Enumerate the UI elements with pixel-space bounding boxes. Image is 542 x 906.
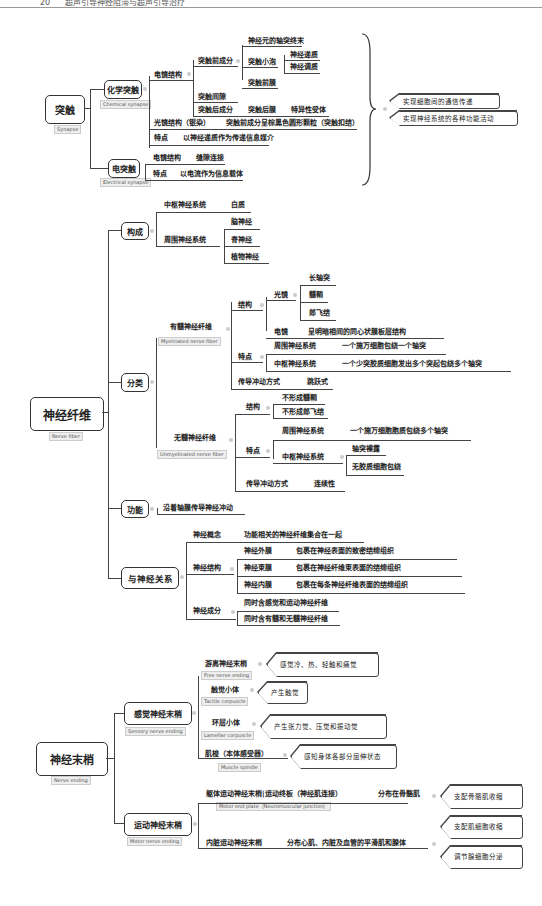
synapse-root-en: Synapse [54, 125, 81, 134]
tactile-corpuscle-en: Tactile corpuscle [201, 697, 248, 706]
nerve-fiber-root-label: 神经纤维 [43, 406, 91, 423]
connector [114, 823, 124, 824]
electrical-feature-label: 特点 [153, 169, 167, 179]
synapse-root-node[interactable]: 突触 [45, 95, 85, 124]
visceral-distribution: 分布心肌、内脏及血管的平滑肌和腺体 [287, 838, 406, 848]
vesicle-label: 突触小泡 [248, 57, 276, 67]
unmyelinated-conduction-label: 传导冲动方式 [246, 479, 288, 489]
tactile-corpuscle-desc: 产生触觉 [258, 682, 308, 704]
presynaptic-label: 突触前成分 [198, 56, 233, 66]
em-label: 电镜 [274, 327, 288, 337]
cranial-nerve-label: 脑神经 [231, 217, 252, 227]
connector [157, 514, 245, 515]
connector [242, 88, 278, 89]
collapse-dot [150, 380, 154, 384]
unmyelinated-pns-desc: 一个施万细胞胞质包绕多个轴突 [350, 426, 448, 436]
connector [300, 285, 336, 286]
connector [186, 542, 364, 543]
unmyelinated-en: Unmyelinated nerve fiber [157, 450, 227, 459]
collapse-dot [192, 711, 196, 715]
connector [235, 457, 270, 458]
collapse-dot [266, 449, 270, 453]
connector [237, 625, 340, 626]
connector [114, 713, 115, 823]
classification-label: 分类 [127, 377, 143, 388]
myelinated-label: 有髓神经纤维 [170, 322, 212, 332]
collapse-dot [236, 59, 240, 63]
myelinated-pns-desc: 一个施万细胞包绕一个轴突 [342, 341, 426, 351]
collapse-dot [432, 842, 436, 846]
connector [235, 415, 236, 492]
lm-structure-label: 光镜结构（银染） [154, 118, 210, 128]
myelinated-conduction-label: 传导冲动方式 [238, 377, 280, 387]
connector [224, 263, 269, 264]
perineurium-label: 神经束膜 [244, 563, 272, 573]
em-desc: 呈明暗相间的同心状膜板层结构 [308, 327, 406, 337]
nerve-fiber-root-node[interactable]: 神经纤维 [30, 397, 104, 431]
connector [186, 574, 234, 575]
function-desc: 沿着轴膜传导神经冲动 [163, 503, 233, 513]
nerve-ending-root-node[interactable]: 神经末梢 [36, 742, 108, 776]
lamellar-corpuscle-label: 环层小体 [212, 718, 240, 728]
postsynaptic-label: 突触后成分 [198, 105, 233, 115]
unmyelinated-conduction-desc: 连续性 [314, 479, 335, 489]
composition-node[interactable]: 构成 [121, 222, 149, 240]
connector [346, 455, 386, 456]
pns-label: 周围神经系统 [164, 235, 206, 245]
collapse-dot [260, 303, 264, 307]
connector [266, 297, 267, 331]
electrical-em-desc: 缝隙连接 [196, 153, 224, 163]
connector [145, 164, 225, 165]
collapse-dot [383, 107, 387, 111]
collapse-dot [230, 567, 234, 571]
visceral-function-1: 支配肌细胞收缩 [441, 816, 523, 839]
motor-ending-en: Motor nerve ending [127, 837, 182, 846]
nerve-relation-node[interactable]: 与神经关系 [121, 567, 179, 589]
neuromodulator-label: 神经调质 [290, 62, 318, 72]
connector [108, 230, 109, 578]
connector [156, 212, 157, 246]
electrical-synapse-node[interactable]: 电突触 [108, 159, 140, 178]
connector [300, 285, 301, 321]
curly-brace-icon [360, 32, 380, 187]
visceral-motor-label: 内脏运动神经末梢 [206, 838, 262, 848]
connector [149, 145, 269, 146]
classification-node[interactable]: 分类 [121, 373, 149, 392]
lm-desc-label: 突触前成分呈棕黑色圆形颗粒（突触扣结） [226, 118, 359, 128]
connector [237, 611, 238, 625]
connector [346, 455, 347, 476]
connector [156, 338, 157, 448]
electrical-synapse-en: Electrical synapse [100, 178, 151, 187]
connector [231, 362, 263, 363]
motor-ending-node[interactable]: 运动神经末梢 [124, 813, 192, 836]
epineurium-desc: 包裹在神经表面的致密结缔组织 [296, 546, 394, 556]
ranvier-node-label: 郎飞结 [309, 308, 330, 318]
collapse-dot [229, 438, 233, 442]
muscle-spindle-desc: 感知身体各部分屈伸状态 [291, 745, 397, 769]
nerve-relation-label: 与神经关系 [128, 572, 173, 584]
long-axon-label: 长轴突 [309, 273, 330, 283]
connector [273, 441, 274, 459]
function-callout-1: 实现细胞间的通信传递 [390, 94, 500, 109]
collapse-dot [258, 662, 262, 666]
connector [90, 168, 108, 169]
function-node[interactable]: 功能 [121, 500, 149, 518]
connector [284, 73, 320, 74]
connector [156, 212, 251, 213]
unmyelinated-feature-label: 特点 [246, 446, 260, 456]
neurotransmitter-label: 神经递质 [290, 50, 318, 60]
feature-desc-label: 以神经递质作为传递信息媒介 [183, 133, 274, 143]
connector [156, 246, 220, 247]
chemical-synapse-node[interactable]: 化学突触 [104, 80, 142, 99]
nerve-structure-label: 神经结构 [193, 563, 221, 573]
free-ending-desc: 感觉冷、热、轻触和痛觉 [267, 653, 379, 677]
collapse-dot [266, 406, 270, 410]
connector [284, 60, 320, 61]
collapse-dot [432, 794, 436, 798]
myelinated-cns-desc: 一个少突胶质细胞发出多个突起包绕多个轴突 [342, 359, 482, 369]
sensory-ending-node[interactable]: 感觉神经末梢 [124, 702, 192, 725]
connector [145, 165, 146, 180]
connector [149, 80, 194, 81]
myelinated-pns-label: 周围神经系统 [274, 341, 316, 351]
connector [235, 414, 270, 415]
